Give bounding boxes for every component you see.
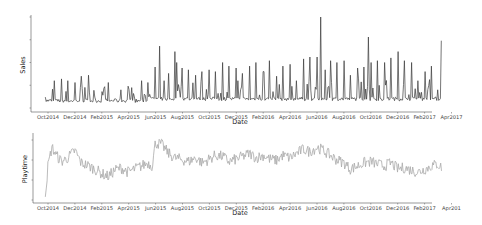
chart-figure: Oct2014Dec2014Feb2015Apr2015Jun2015Aug20… <box>0 0 482 225</box>
playtime-y-label: Playtime <box>21 155 29 183</box>
x-tick-label: Apr2016 <box>279 114 301 121</box>
sales-x-label: Date <box>232 118 248 126</box>
x-tick-label: Oct2015 <box>198 114 220 120</box>
x-tick-label: Dec2014 <box>63 205 87 211</box>
playtime-line <box>45 139 441 197</box>
x-tick-label: Apr2016 <box>279 205 301 212</box>
x-tick-label: Oct2015 <box>198 205 220 211</box>
x-tick-label: Oct2016 <box>360 205 382 211</box>
x-tick-label: Jun2016 <box>305 205 327 212</box>
sales-x-ticks: Oct2014Dec2014Feb2015Apr2015Jun2015Aug20… <box>37 112 463 121</box>
x-tick-label: Dec2014 <box>63 114 87 120</box>
x-tick-label: Dec2016 <box>386 205 409 211</box>
x-tick-label: Feb2016 <box>252 114 274 120</box>
x-tick-label: Apr201 <box>442 205 461 212</box>
x-tick-label: Aug2015 <box>171 205 194 212</box>
x-tick-label: Jun2016 <box>305 114 327 121</box>
x-tick-label: Apr2015 <box>118 205 140 212</box>
sales-line <box>45 17 441 103</box>
x-tick-label: Apr2015 <box>118 114 140 121</box>
x-tick-label: Feb2017 <box>413 205 435 211</box>
x-tick-label: Aug2016 <box>332 114 355 121</box>
x-tick-label: Aug2016 <box>332 205 355 212</box>
x-tick-label: Feb2016 <box>252 205 274 211</box>
x-tick-label: Feb2015 <box>91 114 113 120</box>
x-tick-label: Oct2014 <box>37 205 60 211</box>
playtime-x-label: Date <box>232 209 248 217</box>
x-tick-label: Oct2016 <box>360 114 382 120</box>
sales-chart: Oct2014Dec2014Feb2015Apr2015Jun2015Aug20… <box>19 15 463 126</box>
playtime-chart: Oct2014Dec2014Feb2015Apr2015Jun2015Aug20… <box>21 133 461 217</box>
x-tick-label: Aug2015 <box>171 114 194 121</box>
sales-y-label: Sales <box>19 56 27 74</box>
x-tick-label: Dec2016 <box>386 114 409 120</box>
x-tick-label: Feb2015 <box>91 205 113 211</box>
x-tick-label: Jun2015 <box>144 114 166 121</box>
playtime-x-ticks: Oct2014Dec2014Feb2015Apr2015Jun2015Aug20… <box>37 203 461 212</box>
x-tick-label: Jun2015 <box>144 205 166 212</box>
x-tick-label: Apr2017 <box>440 114 462 121</box>
x-tick-label: Feb2017 <box>413 114 435 120</box>
x-tick-label: Oct2014 <box>37 114 60 120</box>
